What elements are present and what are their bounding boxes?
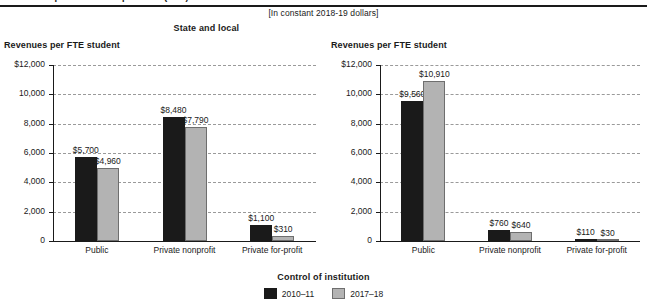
- bar: [163, 117, 185, 241]
- bar: [575, 239, 597, 241]
- y-tick-label: 0: [320, 235, 372, 245]
- y-tick-label: 6,000: [0, 147, 45, 157]
- bar-value-label: $10,910: [408, 69, 460, 79]
- plot-area-federal: 02,0004,0006,0008,00010,000$12,000$5,700…: [53, 65, 316, 241]
- x-category-label: Private nonprofit: [467, 245, 554, 255]
- bar: [185, 127, 207, 241]
- legend-item[interactable]: 2010–11: [264, 288, 314, 299]
- legend-title: Control of institution: [0, 272, 647, 282]
- units-note: [In constant 2018-19 dollars]: [0, 8, 647, 18]
- y-tick-label: 0: [0, 235, 45, 245]
- gray-swatch: [332, 288, 345, 299]
- x-category-label: Public: [380, 245, 467, 255]
- x-axis-baseline: [380, 241, 640, 242]
- y-tick-label: 6,000: [320, 147, 372, 157]
- y-tick-label: 4,000: [0, 176, 45, 186]
- y-tick-label: 10,000: [0, 88, 45, 98]
- y-tick-label: $12,000: [0, 59, 45, 69]
- y-tick-label: 8,000: [0, 118, 45, 128]
- legend-item-label: 2010–11: [282, 289, 314, 299]
- header-divider-rule: [0, 5, 647, 7]
- y-tick-label: 8,000: [320, 118, 372, 128]
- bar-value-label: $640: [495, 220, 547, 230]
- bar-value-label: $310: [257, 224, 309, 234]
- gridline: [53, 65, 316, 66]
- figure-root: Revenues per full-time-equivalent (FTE) …: [0, 0, 647, 307]
- bar-value-label: $7,790: [170, 115, 222, 125]
- bar: [75, 157, 97, 241]
- bar-value-label: $4,960: [82, 156, 134, 166]
- y-tick-label: $12,000: [320, 59, 372, 69]
- bar: [97, 168, 119, 241]
- x-category-label: Private nonprofit: [141, 245, 229, 255]
- bar-value-label: $5,700: [60, 145, 112, 155]
- x-category-label: Private for-profit: [228, 245, 316, 255]
- legend-item[interactable]: 2017–18: [332, 288, 383, 299]
- x-axis-baseline: [53, 241, 316, 242]
- bar: [272, 236, 294, 241]
- y-axis-title: Revenues per FTE student: [4, 40, 120, 50]
- y-tick-label: 4,000: [320, 176, 372, 186]
- top-caption-text: Revenues per full-time-equivalent (FTE) …: [0, 0, 647, 2]
- y-tick-label: 2,000: [320, 206, 372, 216]
- bar: [423, 81, 445, 241]
- bar: [401, 101, 423, 241]
- y-axis-line: [53, 65, 54, 241]
- plot-area-state-and-local: 02,0004,0006,0008,00010,000$12,000$9,560…: [380, 65, 640, 241]
- gridline: [380, 65, 640, 66]
- bar: [488, 230, 510, 241]
- y-tick-label: 10,000: [320, 88, 372, 98]
- dark-swatch: [264, 288, 277, 299]
- y-axis-title: Revenues per FTE student: [331, 40, 447, 50]
- gridline: [53, 94, 316, 95]
- bar-value-label: $1,100: [235, 213, 287, 223]
- bar-value-label: $8,480: [148, 105, 200, 115]
- x-category-label: Private for-profit: [553, 245, 640, 255]
- bar-value-label: $30: [582, 228, 634, 238]
- legend: 2010–112017–18: [0, 288, 647, 299]
- bar: [597, 239, 619, 241]
- x-category-label: Public: [53, 245, 141, 255]
- bar: [510, 232, 532, 241]
- y-tick-label: 2,000: [0, 206, 45, 216]
- legend-item-label: 2017–18: [350, 289, 383, 299]
- panel-title-state-and-local: State and local: [174, 23, 240, 33]
- y-axis-line: [380, 65, 381, 241]
